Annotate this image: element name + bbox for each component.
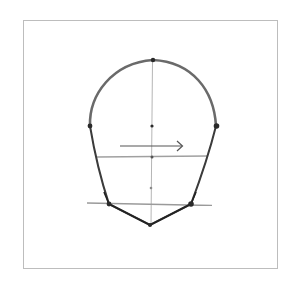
cranium-outline (90, 60, 216, 126)
right-jaw-point (188, 201, 194, 207)
head-construction-drawing (0, 0, 298, 286)
jaw-outline-emphasis (104, 192, 196, 225)
crown-point (151, 58, 155, 62)
face-outline (90, 126, 216, 225)
right-temple-point (214, 123, 220, 129)
nose-point (151, 156, 154, 159)
center-guide-line (151, 60, 153, 226)
left-jaw-point (107, 202, 112, 207)
center-point (150, 124, 153, 127)
mouth-point (150, 187, 153, 190)
chin-point (148, 223, 152, 227)
left-temple-point (88, 124, 93, 129)
